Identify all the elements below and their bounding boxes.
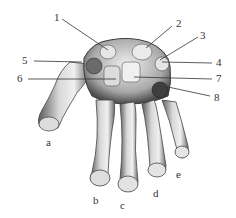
label-6: 6 [17,73,23,84]
label-d: d [153,188,159,199]
label-2: 2 [176,18,182,29]
label-e: e [176,169,181,180]
label-5: 5 [22,55,28,66]
metacarpals [90,100,189,192]
label-1: 1 [54,12,60,23]
carpal-bones [84,38,171,104]
thumb-metacarpal [38,62,89,131]
label-7: 7 [216,73,222,84]
label-8: 8 [214,92,220,103]
hand-bones-diagram: 1 2 3 4 5 6 7 8 a b c d e [0,0,236,218]
label-4: 4 [216,57,222,68]
label-c: c [120,200,125,211]
label-a: a [46,137,51,148]
label-3: 3 [200,30,206,41]
label-b: b [93,195,99,206]
